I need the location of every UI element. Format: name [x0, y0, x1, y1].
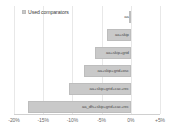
legend-label: Used comparators — [28, 9, 69, 15]
tick-label: -5% — [97, 117, 106, 123]
x-axis-line — [14, 114, 160, 115]
bar-label: aa — [124, 12, 128, 22]
tick-label: 0% — [127, 117, 134, 123]
bar-row: aa+skip+grid+cac+rec — [14, 83, 160, 95]
bar-row: aa_dfs+skip+grid+cac+rec — [14, 101, 160, 113]
bar-chart: aaaa+skipaa+skip+gridaa+skip+grid+oscaa+… — [0, 0, 170, 139]
bar-label: aa+skip+grid+osc — [97, 66, 128, 76]
bar[interactable] — [129, 11, 131, 23]
bar-label: aa+skip — [115, 30, 129, 40]
bar-row: aa+skip — [14, 29, 160, 41]
bar-label: aa_dfs+skip+grid+cac+rec — [82, 102, 129, 112]
bar-label: aa+skip+grid+cac+rec — [90, 84, 129, 94]
bar-row: aa+skip+grid — [14, 47, 160, 59]
chart-legend: Used comparators — [22, 9, 69, 15]
bar-row: aa+skip+grid+osc — [14, 65, 160, 77]
tick-label: -10% — [67, 117, 78, 123]
gridline — [160, 6, 161, 114]
bar-label: aa+skip+grid — [106, 48, 129, 58]
x-axis-tick-labels: -20%-15%-10%-5%0%+5% — [0, 117, 170, 131]
tick-label: +5% — [155, 117, 165, 123]
tick-label: -20% — [8, 117, 19, 123]
legend-swatch-icon — [22, 10, 26, 14]
plot-area: aaaa+skipaa+skip+gridaa+skip+grid+oscaa+… — [14, 6, 160, 114]
tick-label: -15% — [38, 117, 49, 123]
